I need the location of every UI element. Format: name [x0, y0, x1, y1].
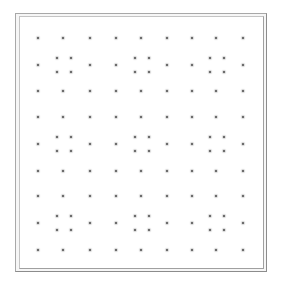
- cluster-dot[interactable]: [209, 229, 211, 231]
- grid-dot[interactable]: [191, 64, 193, 66]
- grid-dot[interactable]: [166, 195, 168, 197]
- cluster-dot[interactable]: [148, 150, 150, 152]
- grid-dot[interactable]: [37, 170, 39, 172]
- grid-dot[interactable]: [191, 195, 193, 197]
- grid-dot[interactable]: [140, 195, 142, 197]
- cluster-dot[interactable]: [148, 215, 150, 217]
- cluster-dot[interactable]: [223, 215, 225, 217]
- grid-dot[interactable]: [89, 37, 91, 39]
- grid-dot[interactable]: [242, 222, 244, 224]
- grid-dot[interactable]: [62, 37, 64, 39]
- grid-dot[interactable]: [140, 249, 142, 251]
- cluster-dot[interactable]: [209, 150, 211, 152]
- cluster-dot[interactable]: [148, 229, 150, 231]
- cluster-dot[interactable]: [134, 136, 136, 138]
- grid-dot[interactable]: [191, 116, 193, 118]
- cluster-dot[interactable]: [223, 229, 225, 231]
- grid-dot[interactable]: [191, 222, 193, 224]
- cluster-dot[interactable]: [223, 71, 225, 73]
- cluster-dot[interactable]: [70, 215, 72, 217]
- cluster-dot[interactable]: [134, 150, 136, 152]
- grid-dot[interactable]: [140, 37, 142, 39]
- grid-dot[interactable]: [115, 37, 117, 39]
- cluster-dot[interactable]: [209, 71, 211, 73]
- cluster-dot[interactable]: [209, 215, 211, 217]
- cluster-dot[interactable]: [209, 136, 211, 138]
- grid-dot[interactable]: [37, 195, 39, 197]
- cluster-dot[interactable]: [134, 215, 136, 217]
- cluster-dot[interactable]: [70, 150, 72, 152]
- cluster-dot[interactable]: [56, 71, 58, 73]
- grid-dot[interactable]: [62, 116, 64, 118]
- grid-dot[interactable]: [191, 170, 193, 172]
- grid-dot[interactable]: [191, 143, 193, 145]
- grid-dot[interactable]: [242, 249, 244, 251]
- cluster-dot[interactable]: [56, 136, 58, 138]
- grid-dot[interactable]: [166, 90, 168, 92]
- grid-dot[interactable]: [242, 143, 244, 145]
- grid-dot[interactable]: [115, 195, 117, 197]
- grid-dot[interactable]: [215, 170, 217, 172]
- grid-dot[interactable]: [191, 37, 193, 39]
- grid-dot[interactable]: [62, 90, 64, 92]
- grid-dot[interactable]: [89, 90, 91, 92]
- grid-dot[interactable]: [89, 170, 91, 172]
- grid-dot[interactable]: [166, 64, 168, 66]
- grid-dot[interactable]: [242, 37, 244, 39]
- grid-dot[interactable]: [89, 116, 91, 118]
- cluster-dot[interactable]: [70, 229, 72, 231]
- grid-dot[interactable]: [166, 249, 168, 251]
- cluster-dot[interactable]: [56, 150, 58, 152]
- grid-dot[interactable]: [191, 90, 193, 92]
- cluster-dot[interactable]: [56, 215, 58, 217]
- cluster-dot[interactable]: [70, 136, 72, 138]
- grid-dot[interactable]: [115, 90, 117, 92]
- cluster-dot[interactable]: [134, 57, 136, 59]
- grid-dot[interactable]: [89, 143, 91, 145]
- grid-dot[interactable]: [140, 90, 142, 92]
- grid-dot[interactable]: [89, 222, 91, 224]
- grid-dot[interactable]: [242, 64, 244, 66]
- grid-dot[interactable]: [89, 64, 91, 66]
- grid-dot[interactable]: [37, 249, 39, 251]
- grid-dot[interactable]: [215, 90, 217, 92]
- grid-dot[interactable]: [115, 249, 117, 251]
- cluster-dot[interactable]: [70, 57, 72, 59]
- cluster-dot[interactable]: [223, 136, 225, 138]
- grid-dot[interactable]: [89, 249, 91, 251]
- grid-dot[interactable]: [191, 249, 193, 251]
- grid-dot[interactable]: [89, 195, 91, 197]
- grid-dot[interactable]: [37, 90, 39, 92]
- grid-dot[interactable]: [242, 90, 244, 92]
- grid-dot[interactable]: [166, 116, 168, 118]
- cluster-dot[interactable]: [70, 71, 72, 73]
- grid-dot[interactable]: [115, 170, 117, 172]
- cluster-dot[interactable]: [134, 71, 136, 73]
- grid-dot[interactable]: [215, 37, 217, 39]
- grid-dot[interactable]: [166, 170, 168, 172]
- cluster-dot[interactable]: [148, 136, 150, 138]
- cluster-dot[interactable]: [134, 229, 136, 231]
- grid-dot[interactable]: [115, 116, 117, 118]
- grid-dot[interactable]: [37, 143, 39, 145]
- grid-dot[interactable]: [115, 143, 117, 145]
- cluster-dot[interactable]: [223, 57, 225, 59]
- grid-dot[interactable]: [215, 116, 217, 118]
- grid-dot[interactable]: [37, 116, 39, 118]
- grid-dot[interactable]: [115, 64, 117, 66]
- grid-dot[interactable]: [115, 222, 117, 224]
- grid-dot[interactable]: [140, 170, 142, 172]
- grid-dot[interactable]: [166, 222, 168, 224]
- grid-dot[interactable]: [140, 116, 142, 118]
- grid-dot[interactable]: [37, 37, 39, 39]
- cluster-dot[interactable]: [56, 229, 58, 231]
- grid-dot[interactable]: [215, 195, 217, 197]
- grid-dot[interactable]: [242, 195, 244, 197]
- grid-dot[interactable]: [166, 37, 168, 39]
- cluster-dot[interactable]: [223, 150, 225, 152]
- grid-dot[interactable]: [166, 143, 168, 145]
- grid-dot[interactable]: [37, 222, 39, 224]
- grid-dot[interactable]: [242, 170, 244, 172]
- grid-dot[interactable]: [215, 249, 217, 251]
- grid-dot[interactable]: [37, 64, 39, 66]
